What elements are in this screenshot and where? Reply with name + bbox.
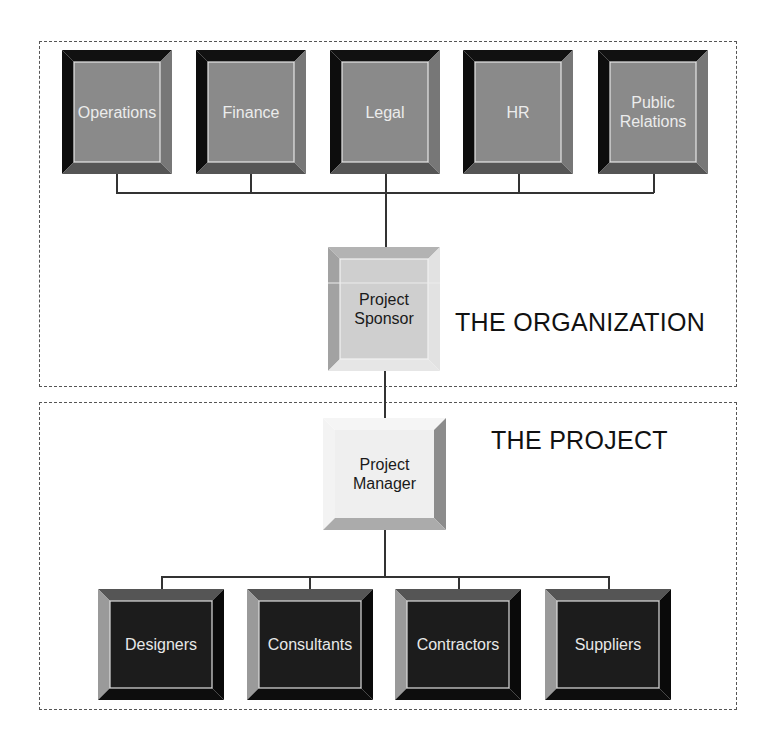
dept-label: Finance bbox=[196, 50, 306, 174]
team-box-consultants[interactable]: Consultants bbox=[247, 589, 373, 700]
project-sponsor-box[interactable]: Project Sponsor bbox=[328, 247, 440, 371]
team-label: Suppliers bbox=[545, 589, 671, 700]
team-label: Consultants bbox=[247, 589, 373, 700]
team-label: Designers bbox=[98, 589, 224, 700]
dept-box-hr[interactable]: HR bbox=[463, 50, 573, 174]
dept-box-public-relations[interactable]: Public Relations bbox=[598, 50, 708, 174]
team-connector-suppliers bbox=[608, 576, 610, 590]
dept-connector-finance bbox=[250, 174, 252, 193]
team-connector-contractors bbox=[458, 576, 460, 590]
dept-label: Public Relations bbox=[598, 50, 708, 174]
dept-connector-hr bbox=[518, 174, 520, 193]
organization-label: THE ORGANIZATION bbox=[455, 308, 705, 337]
manager-label: Project Manager bbox=[323, 418, 446, 530]
team-connector-horizontal bbox=[161, 576, 609, 578]
dept-box-legal[interactable]: Legal bbox=[330, 50, 440, 174]
dept-box-finance[interactable]: Finance bbox=[196, 50, 306, 174]
team-connector-consultants bbox=[309, 576, 311, 590]
dept-connector-legal bbox=[385, 174, 387, 248]
sponsor-label: Project Sponsor bbox=[328, 247, 440, 371]
dept-connector-pr bbox=[653, 174, 655, 193]
dept-label: HR bbox=[463, 50, 573, 174]
dept-label: Operations bbox=[62, 50, 172, 174]
dept-label: Legal bbox=[330, 50, 440, 174]
project-label: THE PROJECT bbox=[491, 426, 668, 455]
sponsor-manager-connector bbox=[384, 371, 386, 419]
dept-box-operations[interactable]: Operations bbox=[62, 50, 172, 174]
project-manager-box[interactable]: Project Manager bbox=[323, 418, 446, 530]
team-box-designers[interactable]: Designers bbox=[98, 589, 224, 700]
manager-team-connector bbox=[384, 530, 386, 577]
team-box-contractors[interactable]: Contractors bbox=[395, 589, 521, 700]
team-label: Contractors bbox=[395, 589, 521, 700]
team-connector-designers bbox=[161, 576, 163, 590]
dept-connector-operations bbox=[116, 174, 118, 193]
team-box-suppliers[interactable]: Suppliers bbox=[545, 589, 671, 700]
